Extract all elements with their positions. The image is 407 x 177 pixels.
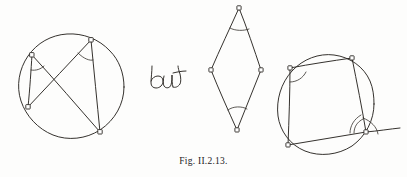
right-angle-arc-interior-at-V-2 <box>354 119 363 133</box>
left-vertex-dot-B <box>89 38 93 42</box>
quad-edge-P-Q <box>290 58 352 68</box>
right-angle-arc-at-P <box>290 72 306 82</box>
right-vertex-dot-Q <box>350 56 354 60</box>
left-vertex-dot-C <box>26 105 30 109</box>
left-panel-group <box>19 34 124 139</box>
kite-vertex-dot-right <box>259 68 263 72</box>
geometry-figure <box>0 0 407 177</box>
left-vertex-dot-D <box>98 130 102 134</box>
quad-edge-V-S <box>288 132 366 145</box>
right-vertex-dot-S <box>286 143 290 147</box>
left-circle <box>19 34 124 139</box>
but-letter-b <box>151 66 163 88</box>
right-angle-arc-interior-at-V <box>350 115 361 133</box>
exterior-ray <box>366 128 400 132</box>
kite-vertex-dot-top <box>237 6 241 10</box>
middle-panel-group <box>209 6 263 132</box>
quad-edge-S-P <box>288 68 290 145</box>
but-letter-t-stem <box>173 66 181 87</box>
kite-angle-arc-bottom <box>228 107 247 110</box>
kite-edge-T-R <box>239 8 261 70</box>
left-vertex-dot-A <box>30 53 34 57</box>
figure-caption: Fig. II.2.13. <box>0 156 407 166</box>
conjunction-but-handwritten <box>151 66 186 88</box>
but-letter-u <box>163 75 173 88</box>
kite-edge-L-B <box>211 70 237 130</box>
right-vertex-dot-P <box>288 66 292 70</box>
kite-edge-T-L <box>211 8 239 70</box>
left-angle-arc-at-B <box>78 53 93 60</box>
left-chord-A-C <box>28 55 32 107</box>
kite-vertex-dot-left <box>209 68 213 72</box>
figure-stage: Fig. II.2.13. <box>0 0 407 177</box>
right-panel-group <box>278 55 400 155</box>
right-vertex-dot-V <box>364 130 368 134</box>
kite-vertex-dot-bottom <box>235 128 239 132</box>
left-chord-B-D <box>91 40 100 132</box>
kite-edge-R-B <box>237 70 261 130</box>
left-chord-B-C <box>28 40 91 107</box>
kite-angle-arc-top <box>230 28 249 30</box>
